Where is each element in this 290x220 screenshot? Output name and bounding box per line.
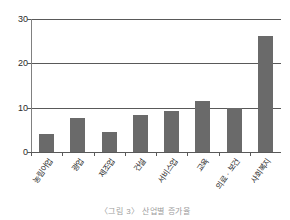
x-tick-mark <box>31 152 32 156</box>
bar <box>102 132 117 152</box>
x-label-slot: 농림어업 <box>31 157 62 207</box>
bar <box>195 101 210 152</box>
x-axis-labels: 농림어업광업제조업건설서비스업교육의료 · 보건사회복지 <box>31 157 281 207</box>
x-axis-label: 건설 <box>132 157 147 174</box>
x-label-slot: 의료 · 보건 <box>219 157 250 207</box>
y-tick-label-30: 30 <box>2 15 28 24</box>
x-tick-mark <box>94 152 95 156</box>
x-axis-label: 농림어업 <box>31 157 54 185</box>
x-label-slot: 사회복지 <box>250 157 281 207</box>
bar <box>70 118 85 152</box>
bar <box>133 115 148 152</box>
bar-slot <box>156 19 187 152</box>
x-tick-slot <box>125 152 156 156</box>
x-axis-label: 광업 <box>70 157 85 174</box>
bar-slot <box>250 19 281 152</box>
bar <box>39 134 54 152</box>
x-tick-mark <box>62 152 63 156</box>
y-tick-label-0: 0 <box>2 148 28 157</box>
y-tick-label-20: 20 <box>2 59 28 68</box>
x-tick-slot <box>156 152 187 156</box>
bar-chart: 30 20 10 0 농림어업광업제조업건설서비스업교육의료 · 보건사회복지 … <box>0 0 290 220</box>
x-tick-mark <box>156 152 157 156</box>
x-tick-slot <box>187 152 218 156</box>
x-label-slot: 서비스업 <box>156 157 187 207</box>
x-axis-label: 서비스업 <box>156 157 179 185</box>
x-tick-mark <box>187 152 188 156</box>
y-axis: 30 20 10 0 <box>0 0 28 220</box>
x-tick-slot <box>62 152 93 156</box>
x-label-slot: 교육 <box>187 157 218 207</box>
bar <box>227 108 242 152</box>
x-tick-slot <box>94 152 125 156</box>
bar-series <box>31 19 281 152</box>
x-tick-mark <box>219 152 220 156</box>
bar-slot <box>31 19 62 152</box>
x-axis-ticks <box>31 152 281 156</box>
bar-slot <box>125 19 156 152</box>
x-tick-mark <box>250 152 251 156</box>
y-tick-label-10: 10 <box>2 104 28 113</box>
bar <box>258 36 273 152</box>
bar-slot <box>187 19 218 152</box>
x-axis-label: 사회복지 <box>249 157 272 185</box>
figure-caption: 〈그림 3〉 산업별 증가율 <box>0 205 290 216</box>
x-axis-label: 의료 · 보건 <box>214 157 242 191</box>
x-tick-slot <box>31 152 62 156</box>
x-tick-slot <box>219 152 250 156</box>
x-axis-label: 교육 <box>195 157 210 174</box>
bar-slot <box>219 19 250 152</box>
x-label-slot: 건설 <box>125 157 156 207</box>
x-label-slot: 광업 <box>62 157 93 207</box>
bar-slot <box>62 19 93 152</box>
x-axis-label: 제조업 <box>97 157 116 179</box>
x-tick-slot <box>250 152 281 156</box>
x-label-slot: 제조업 <box>94 157 125 207</box>
bar-slot <box>94 19 125 152</box>
x-tick-mark <box>125 152 126 156</box>
bar <box>164 111 179 152</box>
